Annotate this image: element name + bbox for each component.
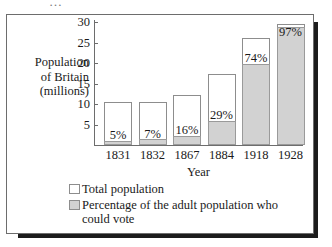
bar-group: 7% — [139, 102, 167, 145]
y-axis-tick-label: 15 — [66, 78, 90, 91]
bar-group: 16% — [173, 95, 201, 145]
bar-voting-share — [208, 121, 236, 145]
figure-frame: Population of Britain (millions) 5101520… — [6, 14, 314, 234]
y-axis-tick — [94, 104, 98, 105]
bar-group: 74% — [242, 38, 270, 145]
bar-percentage-label: 5% — [104, 129, 132, 142]
legend-swatch-total — [69, 184, 80, 194]
page-top-cropped-text: … — [49, 0, 63, 10]
legend-item: Total population — [69, 182, 309, 197]
y-axis-tick-label: 10 — [66, 98, 90, 111]
chart-legend: Total populationPercentage of the adult … — [69, 182, 309, 228]
bar-group: 5% — [104, 102, 132, 145]
bar-chart-plot-area: Population of Britain (millions) 5101520… — [7, 15, 315, 235]
x-axis-tick-label: 1928 — [270, 149, 312, 162]
legend-swatch-vote — [69, 200, 80, 210]
bar-percentage-label: 16% — [173, 124, 201, 137]
y-axis-tick — [94, 22, 98, 23]
y-axis-tick — [94, 43, 98, 44]
y-axis-tick-label: 20 — [66, 57, 90, 70]
legend-label: Total population — [82, 182, 164, 197]
x-axis-line — [94, 145, 303, 146]
legend-item: Percentage of the adult population who c… — [69, 198, 309, 227]
bar-voting-share — [242, 64, 270, 145]
legend-label: Percentage of the adult population who c… — [82, 198, 309, 227]
bar-percentage-label: 29% — [208, 109, 236, 122]
y-axis-tick — [94, 84, 98, 85]
bar-group: 97% — [277, 24, 305, 145]
bar-voting-share — [277, 27, 305, 145]
y-axis-tick — [94, 125, 98, 126]
y-axis-tick-label: 25 — [66, 37, 90, 50]
bar-percentage-label: 74% — [242, 52, 270, 65]
y-axis-tick-label: 30 — [66, 16, 90, 29]
x-axis-title: Year — [94, 165, 303, 180]
y-axis-tick — [94, 63, 98, 64]
bar-percentage-label: 97% — [277, 26, 305, 39]
bar-percentage-label: 7% — [139, 128, 167, 141]
bar-group: 29% — [208, 74, 236, 145]
y-axis-tick-label: 5 — [66, 119, 90, 132]
